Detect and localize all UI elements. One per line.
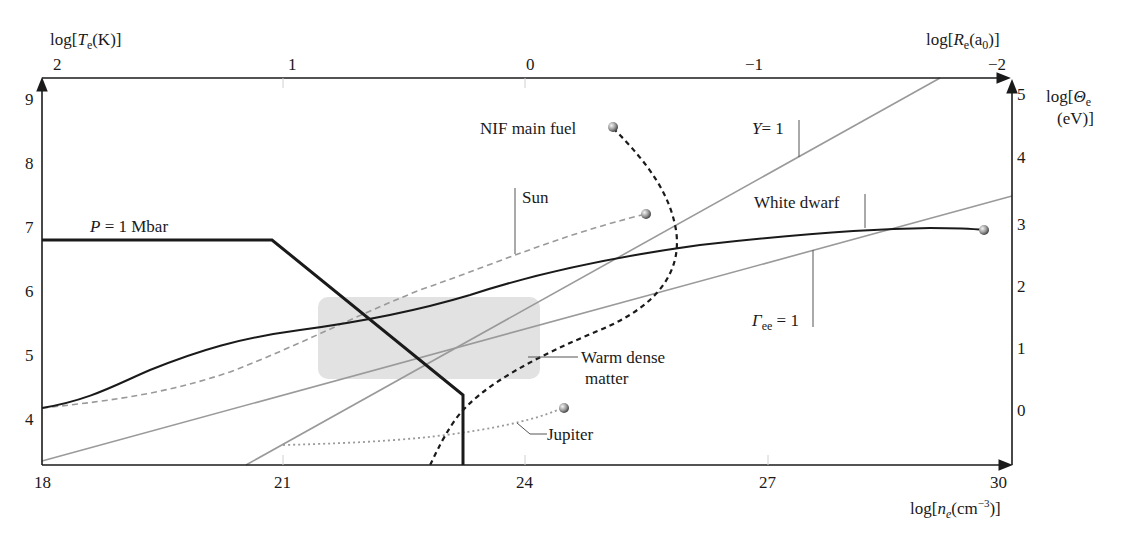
chart: 4 5 6 7 8 9 0 1 2 3 4 5 18 21 24 27 30 2… <box>0 0 1128 533</box>
svg-text:1: 1 <box>1017 339 1026 358</box>
jupiter-marker <box>559 403 569 413</box>
right-axis-title-unit: (eV)] <box>1057 109 1094 128</box>
sun-marker <box>641 209 651 219</box>
bottom-axis-title: log[ne(cm−3)] <box>910 497 1001 521</box>
top-left-axis-title: log[Te(K)] <box>50 30 121 52</box>
svg-text:21: 21 <box>274 473 291 492</box>
svg-text:5: 5 <box>1017 85 1026 104</box>
white-dwarf-label: White dwarf <box>754 193 840 212</box>
y-1-line <box>246 78 940 465</box>
right-y-ticks: 0 1 2 3 4 5 <box>1017 85 1026 420</box>
svg-text:7: 7 <box>25 218 34 237</box>
white-dwarf-marker <box>979 225 989 235</box>
jupiter-label: Jupiter <box>547 425 594 444</box>
jupiter-curve <box>283 408 562 445</box>
warm-dense-matter-label-line2: matter <box>585 369 629 388</box>
svg-text:−1: −1 <box>745 55 763 74</box>
svg-text:24: 24 <box>516 473 534 492</box>
svg-text:27: 27 <box>759 473 777 492</box>
left-y-ticks: 4 5 6 7 8 9 <box>25 90 34 429</box>
svg-text:2: 2 <box>53 55 62 74</box>
top-right-axis-title: log[Re(a0)] <box>926 30 1000 52</box>
svg-text:−2: −2 <box>988 55 1006 74</box>
svg-text:30: 30 <box>990 473 1007 492</box>
nif-main-fuel-label: NIF main fuel <box>480 119 577 138</box>
p-1-mbar-label: P = 1 Mbar <box>89 217 168 236</box>
y-1-label: Y= 1 <box>752 119 784 138</box>
svg-text:1: 1 <box>288 55 297 74</box>
svg-text:3: 3 <box>1017 215 1026 234</box>
bottom-x-ticks: 18 21 24 27 30 <box>34 473 1007 492</box>
svg-text:6: 6 <box>25 282 34 301</box>
top-x-ticks: 2 1 0 −1 −2 <box>53 55 1006 74</box>
gamma-ee-1-line <box>42 196 1012 461</box>
svg-text:4: 4 <box>1017 148 1026 167</box>
gamma-ee-label: Γee = 1 <box>751 311 799 333</box>
jupiter-leader-line <box>517 423 547 434</box>
nif-main-fuel-marker <box>608 122 618 132</box>
svg-text:0: 0 <box>1017 401 1026 420</box>
svg-text:5: 5 <box>25 346 34 365</box>
svg-text:4: 4 <box>25 410 34 429</box>
svg-text:18: 18 <box>34 473 51 492</box>
sun-label: Sun <box>522 188 549 207</box>
right-axis-title: log[Θe <box>1046 87 1091 109</box>
svg-text:0: 0 <box>526 55 535 74</box>
warm-dense-matter-label-line1: Warm dense <box>581 348 665 367</box>
svg-text:2: 2 <box>1017 277 1026 296</box>
svg-text:9: 9 <box>25 90 34 109</box>
svg-text:8: 8 <box>25 154 34 173</box>
